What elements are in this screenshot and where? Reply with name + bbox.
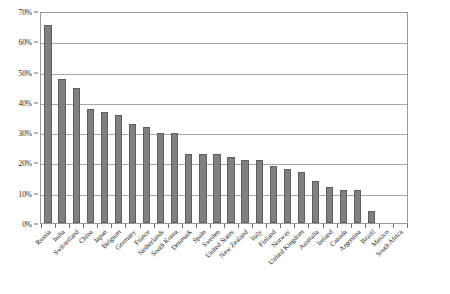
bar-slot <box>115 13 122 223</box>
y-axis-tick-label: 50% <box>19 68 32 77</box>
bar[interactable] <box>256 160 263 223</box>
y-axis-tick-mark <box>34 72 38 73</box>
bars-layer <box>41 13 407 223</box>
bar-slot <box>101 13 108 223</box>
bar[interactable] <box>199 154 206 223</box>
y-axis-tick-label: 30% <box>19 129 32 138</box>
bar[interactable] <box>213 154 220 223</box>
y-axis-tick-mark <box>34 163 38 164</box>
y-axis-tick-label: 0% <box>22 220 32 229</box>
y-axis-tick-label: 20% <box>19 159 32 168</box>
bar-slot <box>256 13 263 223</box>
y-axis-tick-mark <box>34 193 38 194</box>
y-axis: 0%10%20%30%40%50%60%70% <box>0 12 38 224</box>
bar-slot <box>298 13 305 223</box>
x-axis-labels: RussiaIndiaSwitzerlandChinaJapanBelgiumG… <box>40 228 408 294</box>
bar[interactable] <box>284 169 291 223</box>
bar-slot <box>312 13 319 223</box>
bar[interactable] <box>326 187 333 223</box>
bar-slot <box>44 13 51 223</box>
bar-slot <box>157 13 164 223</box>
bar[interactable] <box>73 88 80 223</box>
bar[interactable] <box>157 133 164 223</box>
bar[interactable] <box>171 133 178 223</box>
bar-slot <box>241 13 248 223</box>
bar-slot <box>396 13 403 223</box>
y-axis-tick-mark <box>34 102 38 103</box>
bar[interactable] <box>143 127 150 223</box>
bar[interactable] <box>129 124 136 223</box>
bar-chart-figure: 0%10%20%30%40%50%60%70% RussiaIndiaSwitz… <box>0 0 450 294</box>
bar[interactable] <box>368 211 375 223</box>
bar[interactable] <box>185 154 192 223</box>
bar-slot <box>326 13 333 223</box>
y-axis-tick-mark <box>34 133 38 134</box>
y-axis-tick-label: 70% <box>19 8 32 17</box>
y-axis-tick-label: 60% <box>19 38 32 47</box>
y-axis-tick-mark <box>34 224 38 225</box>
bar-slot <box>382 13 389 223</box>
bar-slot <box>87 13 94 223</box>
y-axis-tick-mark <box>34 12 38 13</box>
bar-slot <box>213 13 220 223</box>
y-axis-tick-mark <box>34 42 38 43</box>
bar-slot <box>368 13 375 223</box>
bar[interactable] <box>44 25 51 223</box>
bar-slot <box>340 13 347 223</box>
bar[interactable] <box>270 166 277 223</box>
y-axis-tick-label: 10% <box>19 189 32 198</box>
bar-slot <box>73 13 80 223</box>
bar-slot <box>354 13 361 223</box>
bar[interactable] <box>354 190 361 223</box>
bar-slot <box>171 13 178 223</box>
bar[interactable] <box>298 172 305 223</box>
bar[interactable] <box>101 112 108 223</box>
bar[interactable] <box>340 190 347 223</box>
bar[interactable] <box>227 157 234 223</box>
bar[interactable] <box>58 79 65 223</box>
bar-slot <box>58 13 65 223</box>
y-axis-tick-label: 40% <box>19 98 32 107</box>
bar-slot <box>270 13 277 223</box>
bar-slot <box>199 13 206 223</box>
bar-slot <box>129 13 136 223</box>
bar-slot <box>185 13 192 223</box>
bar[interactable] <box>312 181 319 223</box>
bar[interactable] <box>115 115 122 223</box>
bar[interactable] <box>241 160 248 223</box>
bar-slot <box>143 13 150 223</box>
bar-slot <box>284 13 291 223</box>
bar-slot <box>227 13 234 223</box>
bar[interactable] <box>87 109 94 223</box>
